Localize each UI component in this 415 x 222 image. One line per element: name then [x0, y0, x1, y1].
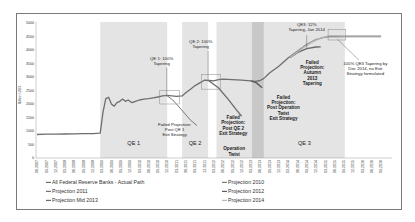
x-tick-label: 09.2014	[305, 160, 309, 173]
x-tick-label: 12.2008	[91, 160, 95, 173]
region-label: QE 2	[189, 140, 202, 146]
x-tick-label: 06.2016	[370, 160, 374, 173]
annotation-text: Twist	[228, 152, 240, 157]
shaded-regions: QE 1QE 2QE 3	[100, 22, 345, 158]
annotation-text: Tapering	[192, 44, 209, 49]
x-tick-label: 06.2014	[296, 160, 300, 173]
x-tick-label: 09.2012	[231, 160, 235, 173]
x-tick-label: 03.2016	[361, 160, 365, 173]
x-tick-label: 09.2007	[45, 160, 49, 173]
annotation-text: Post QE 2	[222, 126, 244, 131]
annotation-text: Tapering	[303, 81, 322, 86]
x-tick-label: 03.2008	[63, 160, 67, 173]
x-tick-label: 06.2009	[110, 160, 114, 173]
y-tick-label: 1000	[26, 129, 34, 133]
x-tick-label: 03.2011	[175, 160, 179, 173]
annotation-text: Post Operation	[267, 105, 300, 110]
x-tick-label: 06.2012	[221, 160, 225, 173]
annotation-text: Exit Strategy	[219, 131, 248, 136]
legend-label: Projection Mid 2013	[52, 197, 98, 203]
x-tick-label: 03.2015	[324, 160, 328, 173]
annotation-text: Exit Strategy	[162, 132, 187, 137]
legend: All Federal Reserve Banks - Actual PathP…	[46, 179, 264, 203]
x-tick-label: 06.2015	[333, 160, 337, 173]
x-tick-label: 03.2013	[249, 160, 253, 173]
annotation-text: Projection:	[221, 120, 245, 125]
x-tick-label: 03.2009	[100, 160, 104, 173]
region-label: QE 3	[298, 140, 311, 146]
x-tick-label: 09.2010	[156, 160, 160, 173]
y-tick-label: 2000	[26, 102, 34, 106]
region-band	[264, 22, 345, 158]
annotation-text: Twist	[278, 111, 290, 116]
legend-label: Projection 2011	[52, 188, 88, 194]
annotation-text: Tapering, Jan 2014	[288, 27, 325, 32]
y-tick-label: 4500	[26, 35, 34, 39]
y-tick-label: 500	[28, 143, 34, 147]
x-tick-label: 12.2013	[277, 160, 281, 173]
legend-label: All Federal Reserve Banks - Actual Path	[52, 179, 144, 185]
x-tick-label: 09.2016	[379, 160, 383, 173]
annotation-text: Operation	[223, 146, 245, 151]
x-tick-label: 12.2012	[240, 160, 244, 173]
annotation-text: Tapering	[153, 61, 170, 66]
y-tick-label: 2500	[26, 89, 34, 93]
region-band	[252, 22, 264, 158]
x-tick-label: 06.2013	[258, 160, 262, 173]
x-tick-label: 09.2013	[268, 160, 272, 173]
annotation-text: Strategy formulated	[347, 71, 385, 76]
x-tick-label: 09.2009	[119, 160, 123, 173]
annotation-text: Failed	[227, 115, 240, 120]
x-tick-label: 09.2008	[82, 160, 86, 173]
annotation-text: Projection:	[271, 100, 295, 105]
annotation-text: Failed	[277, 95, 290, 100]
y-tick-label: 3500	[26, 62, 34, 66]
x-tick-label: 03.2014	[286, 160, 290, 173]
region-label: QE 1	[127, 140, 140, 146]
legend-label: Projection 2012	[228, 188, 264, 194]
x-tick-label: 12.2011	[203, 160, 207, 173]
x-tick-label: 12.2010	[165, 160, 169, 173]
region-band	[216, 22, 251, 158]
x-tick-label: 12.2014	[314, 160, 318, 173]
line-chart: QE 1QE 2QE 3 050010001500200025003000350…	[0, 0, 415, 222]
x-tick-label: 03.2012	[212, 160, 216, 173]
y-axis-title: Billion USD	[18, 86, 22, 105]
annotation-text: Exit Strategy	[269, 116, 298, 121]
legend-label: Projection 2014	[228, 197, 264, 203]
x-tick-label: 06.2007	[35, 160, 39, 173]
annotation-text: Autumn	[304, 70, 322, 75]
y-tick-label: 1500	[26, 116, 34, 120]
x-tick-label: 06.2011	[184, 160, 188, 173]
y-tick-label: 4000	[26, 48, 34, 52]
annotation-text: Projection:	[300, 65, 324, 70]
x-tick-label: 06.2010	[147, 160, 151, 173]
x-tick-label: 12.2009	[128, 160, 132, 173]
annotation-text: 2013	[307, 76, 318, 81]
x-tick-label: 12.2015	[351, 160, 355, 173]
region-band	[100, 22, 167, 158]
y-tick-label: 0	[32, 156, 34, 160]
legend-label: Projection 2010	[228, 179, 264, 185]
x-tick-label: 09.2011	[193, 160, 197, 173]
y-tick-label: 3000	[26, 75, 34, 79]
annotation-text: Failed	[306, 60, 319, 65]
x-tick-label: 03.2010	[138, 160, 142, 173]
x-tick-label: 09.2015	[342, 160, 346, 173]
x-tick-label: 12.2007	[54, 160, 58, 173]
x-tick-label: 06.2008	[72, 160, 76, 173]
y-tick-label: 5000	[26, 21, 34, 25]
